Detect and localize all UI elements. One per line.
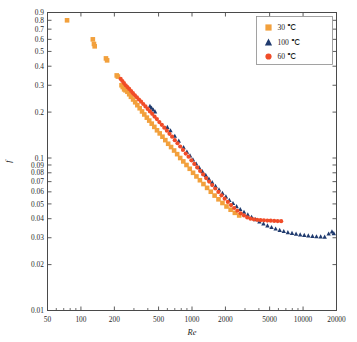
- point-100c: [282, 229, 286, 233]
- point-60c: [195, 165, 199, 169]
- legend-label: 60 ℃: [278, 52, 297, 61]
- point-100c: [286, 230, 290, 234]
- point-60c: [279, 219, 283, 223]
- y-tick-label: 0.2: [35, 108, 45, 117]
- x-tick-label: 100: [75, 315, 86, 324]
- point-30c: [65, 18, 70, 23]
- point-60c: [226, 200, 230, 204]
- point-60c: [189, 158, 193, 162]
- point-30c: [92, 44, 97, 49]
- x-tick-label: 200: [109, 315, 120, 324]
- y-tick-label: 0.6: [35, 35, 45, 44]
- point-60c: [223, 197, 227, 201]
- y-tick-label: 0.4: [35, 62, 45, 71]
- legend-label: 100 ℃: [278, 38, 300, 47]
- point-60c: [207, 179, 211, 183]
- y-tick-label: 0.7: [35, 25, 45, 34]
- point-60c: [201, 172, 205, 176]
- point-60c: [186, 155, 190, 159]
- point-60c: [219, 193, 223, 197]
- point-30c: [105, 58, 110, 63]
- point-60c: [204, 176, 208, 180]
- point-100c: [314, 234, 318, 238]
- point-100c: [277, 228, 281, 232]
- y-tick-label: 0.02: [31, 260, 44, 269]
- point-60c: [181, 148, 185, 152]
- y-tick-label: 0.08: [31, 168, 44, 177]
- point-100c: [290, 231, 294, 235]
- y-tick-label: 0.05: [31, 200, 44, 209]
- point-60c: [213, 186, 217, 190]
- point-100c: [302, 233, 306, 237]
- point-30c: [224, 204, 229, 209]
- point-30c: [187, 166, 192, 171]
- y-tick-label: 0.9: [35, 8, 45, 17]
- point-60c: [184, 151, 188, 155]
- x-tick-label: 1000: [185, 315, 200, 324]
- series-60c: [119, 77, 284, 223]
- point-60c: [229, 203, 233, 207]
- point-60c: [210, 183, 214, 187]
- legend-label: 30 ℃: [278, 23, 297, 32]
- y-tick-label: 0.03: [31, 233, 44, 242]
- x-tick-label: 2000: [218, 315, 233, 324]
- point-100c: [265, 223, 269, 227]
- x-tick-label: 500: [153, 315, 164, 324]
- series-100c: [148, 104, 336, 239]
- point-30c: [216, 197, 221, 202]
- point-100c: [318, 234, 322, 238]
- legend-marker-square: [265, 24, 271, 30]
- x-tick-label: 50: [44, 315, 52, 324]
- y-axis-title: f: [4, 159, 13, 163]
- x-axis-title: Re: [187, 328, 197, 337]
- y-tick-label: 0.01: [31, 306, 44, 315]
- y-tick-label: 0.5: [35, 47, 45, 56]
- y-tick-label: 0.04: [31, 214, 44, 223]
- y-tick-label: 0.8: [35, 16, 45, 25]
- point-60c: [178, 144, 182, 148]
- point-30c: [91, 37, 96, 42]
- point-100c: [269, 225, 273, 229]
- point-60c: [175, 141, 179, 145]
- x-tick-label: 10000: [294, 315, 313, 324]
- friction-factor-scatter-plot: 0.010.020.030.040.050.060.070.080.090.10…: [0, 0, 357, 342]
- y-tick-label: 0.06: [31, 187, 44, 196]
- x-tick-label: 20000: [327, 315, 346, 324]
- y-tick-label: 0.1: [35, 154, 45, 163]
- point-60c: [216, 190, 220, 194]
- point-100c: [310, 234, 314, 238]
- point-100c: [306, 233, 310, 237]
- y-tick-label: 0.3: [35, 81, 45, 90]
- x-tick-label: 5000: [262, 315, 277, 324]
- chart-legend: 30 ℃100 ℃60 ℃: [257, 17, 333, 65]
- point-60c: [232, 206, 236, 210]
- chart-figure: 0.010.020.030.040.050.060.070.080.090.10…: [0, 0, 357, 342]
- legend-marker-circle: [265, 53, 271, 59]
- point-60c: [198, 169, 202, 173]
- point-100c: [322, 235, 326, 239]
- point-100c: [294, 232, 298, 236]
- point-60c: [170, 135, 174, 139]
- point-100c: [298, 232, 302, 236]
- point-60c: [192, 162, 196, 166]
- y-tick-label: 0.07: [31, 177, 44, 186]
- point-30c: [220, 201, 225, 206]
- point-100c: [273, 226, 277, 230]
